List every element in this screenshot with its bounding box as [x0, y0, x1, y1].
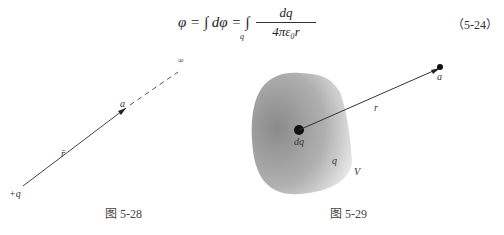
label-a-528: a	[120, 98, 125, 109]
field-point-dot	[437, 64, 443, 70]
label-r: r	[374, 102, 378, 113]
label-q: q	[332, 155, 337, 166]
figures-canvas	[0, 0, 504, 235]
label-dq: dq	[294, 136, 304, 147]
figure-5-28-diagram	[23, 72, 178, 186]
caption-5-28: 图 5-28	[105, 204, 142, 222]
caption-5-29: 图 5-29	[330, 204, 367, 222]
label-infinity: ∞	[178, 56, 184, 65]
arrowhead-icon	[118, 108, 126, 115]
label-plus-q: +q	[9, 188, 21, 199]
figure-5-29-diagram	[252, 64, 443, 194]
label-r-vector: r̄	[61, 148, 65, 159]
label-a-529: a	[437, 71, 442, 82]
label-V: V	[354, 166, 360, 177]
